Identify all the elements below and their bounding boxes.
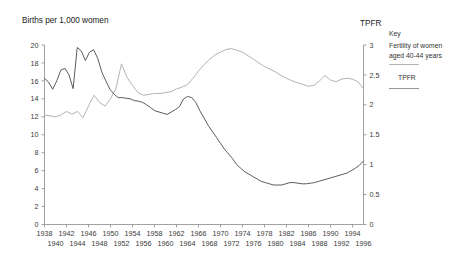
x-tick-label-top: 1994 [345, 229, 361, 238]
right-tick-label: 3 [370, 41, 374, 50]
legend-item-tpfr: TPFR [398, 74, 416, 81]
legend-heading: Key [389, 30, 401, 38]
x-tick-label-top: 1986 [301, 229, 317, 238]
right-tick-label: 0.5 [370, 190, 380, 199]
x-tick-label-top: 1950 [103, 229, 119, 238]
series-line-fertility-40-44 [45, 49, 364, 118]
x-tick-label-bottom: 1984 [290, 239, 306, 248]
x-tick-label-top: 1938 [37, 229, 53, 238]
x-tick-label-top: 1954 [125, 229, 141, 238]
legend-item-fertility-line2: aged 40-44 years [389, 52, 443, 60]
x-tick-label-bottom: 1976 [246, 239, 262, 248]
legend-item-fertility-line1: Fertility of women [389, 42, 442, 50]
x-tick-label-top: 1982 [279, 229, 295, 238]
left-tick-label: 18 [31, 59, 39, 68]
x-tick-label-bottom: 1964 [180, 239, 196, 248]
axis-frame [45, 45, 364, 225]
x-tick-label-top: 1946 [81, 229, 97, 238]
left-tick-label: 0 [35, 220, 39, 229]
chart-title: Births per 1,000 women [22, 16, 109, 25]
chart-figure: Births per 1,000 women TPFR 024681012141… [0, 0, 468, 263]
left-tick-label: 8 [35, 148, 39, 157]
x-tick-label-bottom: 1944 [70, 239, 86, 248]
chart-legend: Key Fertility of women aged 40-44 years … [389, 30, 443, 89]
x-tick-label-top: 1958 [147, 229, 163, 238]
left-axis-ticks: 02468101214161820 [31, 41, 45, 230]
right-axis-ticks: 00.511.522.53 [364, 41, 380, 230]
x-tick-label-bottom: 1992 [334, 239, 350, 248]
x-tick-label-top: 1970 [213, 229, 229, 238]
x-tick-label-bottom: 1988 [312, 239, 328, 248]
left-tick-label: 10 [31, 130, 39, 139]
x-tick-label-top: 1942 [59, 229, 75, 238]
x-tick-label-bottom: 1972 [224, 239, 240, 248]
series-layer [45, 47, 364, 185]
left-tick-label: 12 [31, 112, 39, 121]
x-tick-label-bottom: 1952 [114, 239, 130, 248]
x-tick-label-top: 1978 [257, 229, 273, 238]
right-tick-label: 1 [370, 160, 374, 169]
x-tick-label-bottom: 1996 [356, 239, 372, 248]
left-tick-label: 16 [31, 77, 39, 86]
x-axis-ticks: 1938194219461950195419581962196619701974… [37, 225, 372, 249]
right-tick-label: 2 [370, 100, 374, 109]
right-tick-label: 2.5 [370, 71, 380, 80]
secondary-axis-title: TPFR [360, 19, 381, 28]
x-tick-label-bottom: 1968 [202, 239, 218, 248]
x-tick-label-bottom: 1940 [48, 239, 64, 248]
x-tick-label-bottom: 1948 [92, 239, 108, 248]
x-tick-label-bottom: 1956 [136, 239, 152, 248]
left-tick-label: 4 [35, 184, 39, 193]
right-tick-label: 0 [370, 220, 374, 229]
left-tick-label: 14 [31, 94, 39, 103]
x-tick-label-top: 1974 [235, 229, 251, 238]
plot-axes [45, 45, 364, 225]
x-tick-label-top: 1966 [191, 229, 207, 238]
right-tick-label: 1.5 [370, 130, 380, 139]
left-tick-label: 2 [35, 202, 39, 211]
left-tick-label: 20 [31, 41, 39, 50]
x-tick-label-top: 1962 [169, 229, 185, 238]
left-tick-label: 6 [35, 166, 39, 175]
x-tick-label-bottom: 1960 [158, 239, 174, 248]
x-tick-label-bottom: 1980 [268, 239, 284, 248]
x-tick-label-top: 1990 [323, 229, 339, 238]
series-line-tpfr [45, 47, 364, 185]
